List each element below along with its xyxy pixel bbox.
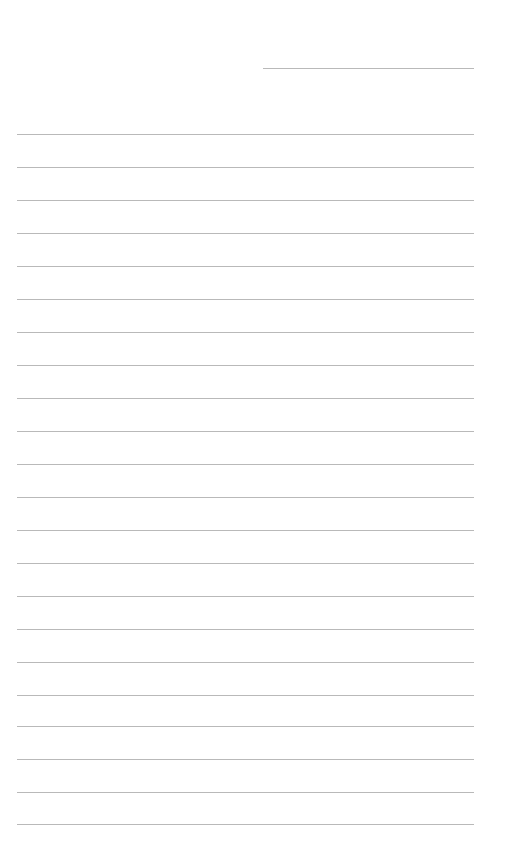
writing-line (17, 530, 474, 531)
writing-line (17, 266, 474, 267)
writing-line (17, 726, 474, 727)
writing-line (17, 792, 474, 793)
writing-line (17, 497, 474, 498)
writing-line (17, 332, 474, 333)
writing-line (17, 662, 474, 663)
writing-line (17, 299, 474, 300)
writing-line (17, 629, 474, 630)
writing-line (17, 398, 474, 399)
writing-line (17, 464, 474, 465)
writing-line (17, 167, 474, 168)
writing-line (17, 563, 474, 564)
lined-paper-sheet (0, 0, 511, 866)
writing-line (17, 596, 474, 597)
writing-line (17, 233, 474, 234)
date-line (263, 68, 474, 69)
writing-line (17, 134, 474, 135)
writing-line (17, 759, 474, 760)
writing-line (17, 200, 474, 201)
writing-line (17, 695, 474, 696)
writing-line (17, 431, 474, 432)
writing-line (17, 824, 474, 825)
writing-line (17, 365, 474, 366)
